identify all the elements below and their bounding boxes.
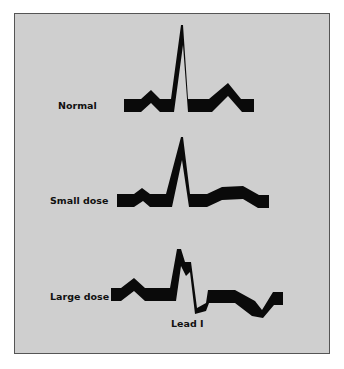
trace-label-small-dose: Small dose [50, 195, 108, 206]
trace-label-large-dose: Large dose [50, 291, 109, 302]
ecg-trace-small-dose [117, 137, 269, 208]
ecg-trace-normal [124, 25, 254, 112]
caption-lead: Lead I [171, 318, 204, 329]
trace-label-normal: Normal [58, 100, 97, 111]
ecg-trace-large-dose [111, 249, 283, 318]
ecg-traces [0, 0, 344, 369]
